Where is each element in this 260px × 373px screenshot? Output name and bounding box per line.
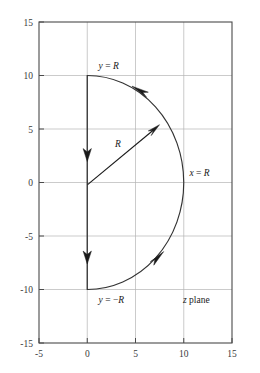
ytick-label-10: 10	[24, 71, 34, 81]
label-z-plane: z plane	[182, 295, 210, 305]
label-y-equals-minus-R: y = −R	[98, 295, 125, 305]
label-radius-R: R	[114, 139, 121, 149]
contour-plot-svg: -5 0 5 10 15 15 10 5 0 -5 -10 -15	[0, 0, 260, 373]
ytick-label-0: 0	[28, 178, 33, 188]
xtick-label-15: 15	[227, 349, 237, 359]
ytick-label-neg5: -5	[25, 232, 33, 242]
label-x-equals-R: x = R	[189, 168, 210, 178]
xtick-label-0: 0	[85, 349, 90, 359]
ytick-label-5: 5	[28, 125, 33, 135]
ytick-label-15: 15	[24, 18, 34, 28]
xtick-label-neg5: -5	[35, 349, 43, 359]
xtick-label-10: 10	[179, 349, 189, 359]
ytick-label-neg10: -10	[20, 285, 33, 295]
figure-container: -5 0 5 10 15 15 10 5 0 -5 -10 -15	[0, 0, 260, 373]
ytick-label-neg15: -15	[20, 339, 33, 349]
xtick-label-5: 5	[133, 349, 138, 359]
label-y-equals-R: y = R	[98, 61, 119, 71]
